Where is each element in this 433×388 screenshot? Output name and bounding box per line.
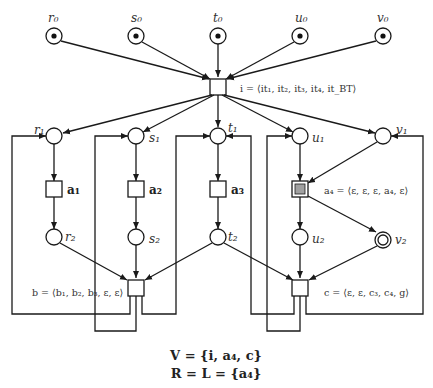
transition-label-a3: a₃ <box>231 183 244 197</box>
place-label-r0: r₀ <box>48 11 59 25</box>
place-t0: t₀ <box>210 11 226 44</box>
transition-b: b = ⟨b₁, b₂, b₃, ε, ε⟩ <box>32 280 144 298</box>
arcs-to-b-c <box>60 243 377 280</box>
transition-c-equation: c = ⟨ε, ε, c₃, c₄, g⟩ <box>324 287 409 298</box>
place-label-u1: u₁ <box>312 131 325 145</box>
arcs-from-i <box>63 95 375 133</box>
place-r0: r₀ <box>46 11 62 44</box>
place-v1: v₁ <box>375 123 408 144</box>
transition-a3: a₃ <box>210 181 244 197</box>
place-s1: s₁ <box>128 128 160 145</box>
transition-i: i = ⟨it₁, it₂, it₃, it₄, it_BT⟩ <box>210 79 356 95</box>
loops-from-b <box>12 136 210 331</box>
arcs-to-i <box>61 41 376 79</box>
transition-a4: a₄ = ⟨ε, ε, ε, a₄, ε⟩ <box>292 181 408 197</box>
petri-net-diagram: r₀ s₀ t₀ u₀ v₀ i = ⟨it₁, it₂, it₃, it₄, … <box>0 0 433 388</box>
place-label-u2: u₂ <box>312 232 325 246</box>
place-label-t1: t₁ <box>228 121 238 135</box>
transition-a1: a₁ <box>46 181 80 197</box>
place-label-v0: v₀ <box>377 11 389 25</box>
set-v: V = {i, a₄, c} <box>169 348 262 363</box>
place-s2: s₂ <box>128 229 160 246</box>
place-label-s1: s₁ <box>149 131 160 145</box>
transition-label-a2: a₂ <box>149 183 162 197</box>
transition-c: c = ⟨ε, ε, c₃, c₄, g⟩ <box>292 280 409 298</box>
place-label-u0: u₀ <box>295 11 308 25</box>
place-u1: u₁ <box>292 128 325 145</box>
transition-a4-equation: a₄ = ⟨ε, ε, ε, a₄, ε⟩ <box>324 185 408 196</box>
place-label-r2: r₂ <box>65 230 76 244</box>
place-r1: r₁ <box>34 123 62 144</box>
place-label-s0: s₀ <box>131 11 142 25</box>
place-t2: t₂ <box>210 229 238 245</box>
transition-b-equation: b = ⟨b₁, b₂, b₃, ε, ε⟩ <box>32 287 123 298</box>
place-s0: s₀ <box>128 11 144 44</box>
place-u2: u₂ <box>292 229 325 246</box>
place-label-t0: t₀ <box>213 11 223 25</box>
place-label-t2: t₂ <box>228 230 238 244</box>
transition-i-equation: i = ⟨it₁, it₂, it₃, it₄, it_BT⟩ <box>240 83 356 95</box>
place-r2: r₂ <box>46 229 76 245</box>
transition-a2: a₂ <box>128 181 162 197</box>
set-r-l: R = L = {a₄} <box>171 366 262 381</box>
place-t1: t₁ <box>210 121 238 144</box>
place-label-r1: r₁ <box>34 123 45 137</box>
place-v0: v₀ <box>375 11 391 44</box>
highlight-fill <box>295 184 305 194</box>
arcs-from-actions <box>54 196 376 232</box>
place-label-v2: v₂ <box>395 233 407 247</box>
place-label-v1: v₁ <box>396 123 408 137</box>
place-label-s2: s₂ <box>149 232 160 246</box>
transition-label-a1: a₁ <box>67 183 80 197</box>
arcs-to-actions <box>54 142 377 183</box>
place-v2: v₂ <box>375 232 407 248</box>
place-u0: u₀ <box>292 11 308 44</box>
